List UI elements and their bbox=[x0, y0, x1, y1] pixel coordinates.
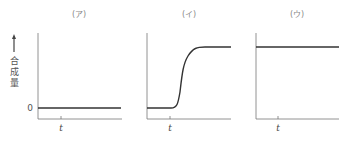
panel-b-title: (イ) bbox=[182, 10, 196, 19]
panel-a: (ア) t 0 bbox=[27, 10, 122, 133]
panel-b-series-line bbox=[147, 47, 231, 108]
panel-c: (ウ) t bbox=[256, 10, 339, 133]
ylabel-char-3: 量 bbox=[10, 78, 19, 88]
ylabel-char-2: 成 bbox=[10, 66, 19, 77]
chart-figure: 合 成 量 (ア) t 0 (イ) t (ウ) t bbox=[0, 0, 352, 146]
arrowhead-icon bbox=[12, 34, 16, 39]
panel-b-t-label: t bbox=[168, 123, 172, 133]
panel-c-t-label: t bbox=[276, 123, 280, 133]
panel-a-title: (ア) bbox=[72, 10, 86, 19]
panel-b: (イ) t bbox=[147, 10, 231, 133]
panel-a-t-label: t bbox=[59, 123, 63, 133]
y-axis-label: 合 成 量 bbox=[10, 34, 19, 88]
ylabel-char-1: 合 bbox=[10, 55, 19, 66]
panel-c-title: (ウ) bbox=[290, 10, 304, 19]
zero-label: 0 bbox=[27, 103, 33, 113]
